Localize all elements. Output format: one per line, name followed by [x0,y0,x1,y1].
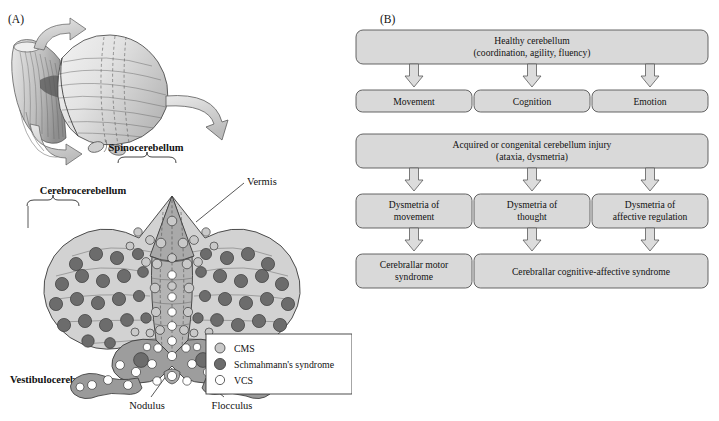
box-healthy-cerebellum-line2: (coordination, agility, fluency) [473,47,590,59]
arrow-dysmetria-affective-to-ccas [641,228,659,251]
cerebrocerebellum-brace [27,195,79,206]
legend-label-cms: CMS [234,343,255,354]
box-dysmetria-of-thought: Dysmetria of thought [474,194,590,228]
box-dysmetria-of-movement: Dysmetria of movement [356,194,472,228]
transform-arrow [166,96,228,140]
arrow-injury-to-dysmetria-thought [523,168,541,191]
vermis-label: Vermis [247,176,277,187]
box-cerebellar-cognitive-affective-syndrome: Cerebrallar cognitive-affective syndrome [474,254,708,288]
box-emotion: Emotion [592,90,708,112]
legend-marker-cms [215,343,225,353]
box-emotion-label: Emotion [633,96,666,107]
arrow-dysmetria-thought-to-ccas [523,228,541,251]
cerebrocerebellum-label-group: Cerebrocerebellum [27,185,126,228]
panel-a-diagram: Spinocerebellum Cerebrocerebellum Vestib… [0,0,352,421]
arrow-healthy-to-movement [405,64,423,87]
box-cerebellar-motor-syndrome: Cerebrallar motor syndrome [356,254,472,288]
legend-label-vcs: VCS [234,375,253,386]
box-cerebellum-injury-line1: Acquired or congenital cerebellum injury [453,139,612,150]
box-dysmetria-affective-line1: Dysmetria of [625,199,676,210]
cerebellar-hemisphere [58,35,168,157]
spinocerebellum-brace [118,152,176,163]
box-ccas-label: Cerebrallar cognitive-affective syndrome [512,266,670,277]
box-cognition: Cognition [474,90,590,112]
legend-marker-schmahmann [214,358,225,369]
box-motor-syndrome-line2: syndrome [395,271,433,282]
box-cerebellum-injury: Acquired or congenital cerebellum injury… [356,134,708,168]
box-movement: Movement [356,90,472,112]
box-dysmetria-thought-line1: Dysmetria of [507,199,558,210]
box-cognition-label: Cognition [513,96,552,107]
box-movement-label: Movement [393,96,435,107]
vermis-label-group: Vermis [196,176,277,222]
arrow-healthy-to-cognition [523,64,541,87]
box-dysmetria-movement-line2: movement [394,211,435,222]
spinocerebellum-label-group: Spinocerebellum [108,142,183,163]
legend-label-schmahmann: Schmahmann's syndrome [234,359,335,370]
arrow-injury-to-dysmetria-movement [405,168,423,191]
arrow-injury-to-dysmetria-affective [641,168,659,191]
box-dysmetria-thought-line2: thought [517,211,547,222]
spinocerebellum-label: Spinocerebellum [108,142,183,153]
box-healthy-cerebellum-line1: Healthy cerebellum [494,35,570,46]
box-healthy-cerebellum: Healthy cerebellum (coordination, agilit… [356,30,708,64]
legend-marker-vcs [215,375,224,384]
arrow-healthy-to-emotion [641,64,659,87]
panel-b-flowchart: Healthy cerebellum (coordination, agilit… [352,18,716,318]
cerebrocerebellum-label: Cerebrocerebellum [40,185,127,196]
box-motor-syndrome-line1: Cerebrallar motor [380,259,449,270]
box-dysmetria-of-affective-regulation: Dysmetria of affective regulation [592,194,708,228]
vermis-leader [196,183,244,222]
arrow-dysmetria-movement-to-motor-syndrome [405,228,423,251]
box-cerebellum-injury-line2: (ataxia, dysmetria) [496,151,568,163]
legend: CMS Schmahmann's syndrome VCS [206,334,352,394]
nodulus-label: Nodulus [129,400,165,411]
box-dysmetria-affective-line2: affective regulation [613,211,688,222]
flocculus-label: Flocculus [212,400,253,411]
box-dysmetria-movement-line1: Dysmetria of [389,199,440,210]
figure-container: (A) (B) [0,0,719,421]
